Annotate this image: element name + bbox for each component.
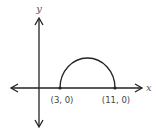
start-point-label: (3, 0) — [51, 95, 74, 105]
x-axis — [11, 84, 142, 92]
end-point-dot — [113, 86, 116, 89]
coordinate-graph: y x (3, 0) (11, 0) — [0, 0, 158, 130]
semicircle-curve — [60, 58, 115, 88]
end-point-label: (11, 0) — [102, 95, 130, 105]
y-axis — [35, 18, 43, 127]
x-axis-label: x — [146, 82, 152, 93]
y-axis-label: y — [35, 3, 42, 14]
start-point-dot — [58, 86, 61, 89]
